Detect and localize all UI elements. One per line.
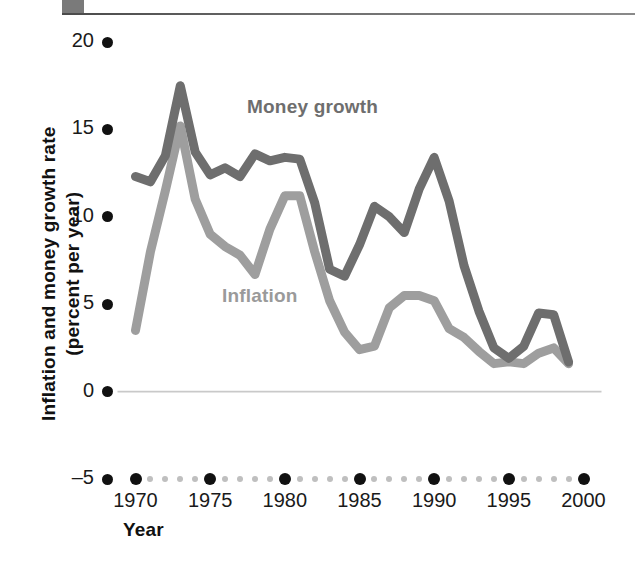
x-tick-label: 2000 xyxy=(549,489,619,512)
x-tick-label: 1975 xyxy=(175,489,245,512)
series-label-money-growth: Money growth xyxy=(247,96,378,118)
x-tick-dot xyxy=(279,473,291,485)
series-line-money-growth xyxy=(136,86,569,362)
chart-canvas xyxy=(0,0,635,571)
x-minor-dot xyxy=(566,476,572,482)
x-tick-label: 1990 xyxy=(399,489,469,512)
x-minor-dot xyxy=(237,476,243,482)
y-tick-dot xyxy=(102,37,113,48)
y-tick-label: –5 xyxy=(48,466,94,489)
y-tick-dot xyxy=(102,124,113,135)
x-axis-title: Year xyxy=(123,519,164,541)
y-axis-title-line1: Inflation and money growth rate xyxy=(38,127,59,421)
x-minor-dot xyxy=(551,476,557,482)
x-tick-dot xyxy=(130,473,142,485)
x-tick-label: 1970 xyxy=(101,489,171,512)
x-tick-label: 1985 xyxy=(325,489,395,512)
y-tick-dot xyxy=(102,474,113,485)
x-minor-dot xyxy=(252,476,258,482)
y-axis-title-line2: (percent per year) xyxy=(62,192,83,356)
x-minor-dot xyxy=(491,476,497,482)
y-tick-label: 20 xyxy=(48,29,94,52)
x-tick-dot xyxy=(578,473,590,485)
x-minor-dot xyxy=(297,476,303,482)
plot-area xyxy=(0,0,635,571)
y-axis-title: Inflation and money growth rate (percent… xyxy=(37,109,85,439)
x-tick-dot xyxy=(503,473,515,485)
x-tick-dot xyxy=(354,473,366,485)
x-minor-dot xyxy=(476,476,482,482)
y-tick-dot xyxy=(102,299,113,310)
x-minor-dot xyxy=(312,476,318,482)
figure-root: 20151050–5 1970197519801985199019952000 … xyxy=(0,0,635,571)
x-minor-dot xyxy=(267,476,273,482)
x-minor-dot xyxy=(342,476,348,482)
x-minor-dot xyxy=(536,476,542,482)
x-minor-dot xyxy=(461,476,467,482)
x-tick-label: 1980 xyxy=(250,489,320,512)
x-minor-dot xyxy=(327,476,333,482)
x-minor-dot xyxy=(521,476,527,482)
x-tick-label: 1995 xyxy=(474,489,544,512)
series-label-inflation: Inflation xyxy=(222,285,298,307)
